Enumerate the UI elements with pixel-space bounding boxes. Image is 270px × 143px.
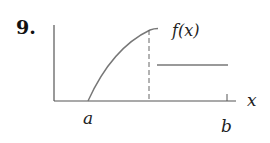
problem-number: 9.: [16, 16, 36, 38]
graph-figure: 9. f(x) x a b: [0, 0, 270, 143]
point-a-label: a: [83, 108, 93, 128]
x-axis-label: x: [247, 90, 257, 110]
function-label: f(x): [171, 21, 199, 40]
function-curve-rising: [88, 29, 158, 102]
point-b-label: b: [221, 116, 232, 136]
